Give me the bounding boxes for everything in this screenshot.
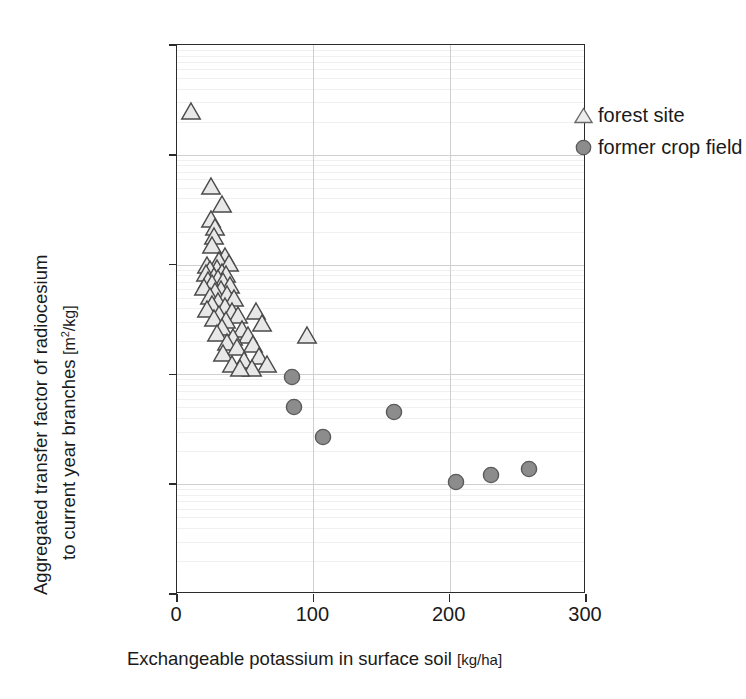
y-tick-mark	[169, 264, 177, 266]
gridline-minor-horizontal	[177, 50, 584, 51]
data-point-forest-site	[296, 325, 318, 349]
gridline-minor-horizontal	[177, 399, 584, 400]
x-tick-mark	[176, 594, 178, 602]
gridline-minor-horizontal	[177, 212, 584, 213]
data-point-former-crop-field	[519, 459, 539, 479]
legend-item-former-crop-field[interactable]: former crop field	[573, 131, 746, 163]
gridline-minor-horizontal	[177, 432, 584, 433]
gridline-minor-horizontal	[177, 102, 584, 103]
gridline-minor-horizontal	[177, 418, 584, 419]
legend: forest site former crop field	[573, 99, 746, 163]
y-axis-title-line-2-text: to current year branches	[58, 359, 79, 560]
data-point-former-crop-field	[384, 402, 404, 422]
legend-item-forest-site[interactable]: forest site	[573, 99, 746, 131]
gridline-minor-horizontal	[177, 501, 584, 502]
gridline-minor-horizontal	[177, 451, 584, 452]
gridline-minor-horizontal	[177, 62, 584, 63]
data-point-forest-site	[229, 358, 251, 382]
data-point-former-crop-field	[481, 465, 501, 485]
x-axis-title: Exchangeable potassium in surface soil […	[0, 648, 629, 670]
triangle-open-icon	[573, 105, 593, 125]
y-axis-title-line-2: to current year branches [m2/kg]	[60, 305, 79, 560]
gridline-minor-horizontal	[177, 495, 584, 496]
gridline-minor-horizontal	[177, 89, 584, 90]
y-tick-mark	[169, 154, 177, 156]
y-tick-mark	[169, 374, 177, 376]
x-axis-title-text: Exchangeable potassium in surface soil	[127, 648, 457, 669]
x-tick-mark	[313, 594, 315, 602]
gridline-minor-horizontal	[177, 509, 584, 510]
legend-label-former-crop-field: former crop field	[598, 136, 743, 159]
x-tick-label: 100	[272, 604, 352, 624]
gridline-minor-horizontal	[177, 56, 584, 57]
gridline-minor-horizontal	[177, 179, 584, 180]
y-tick-mark	[169, 44, 177, 46]
x-tick-mark	[449, 594, 451, 602]
gridline-minor-horizontal	[177, 188, 584, 189]
gridline-vertical	[313, 45, 314, 592]
gridline-minor-horizontal	[177, 385, 584, 386]
gridline-minor-horizontal	[177, 489, 584, 490]
legend-label-forest-site: forest site	[598, 104, 685, 127]
data-point-former-crop-field	[282, 367, 302, 387]
data-point-forest-site	[180, 101, 202, 125]
gridline-minor-horizontal	[177, 407, 584, 408]
data-point-former-crop-field	[284, 397, 304, 417]
gridline-minor-horizontal	[177, 122, 584, 123]
gridline-vertical	[450, 45, 451, 592]
gridline-minor-horizontal	[177, 165, 584, 166]
gridline-minor-horizontal	[177, 198, 584, 199]
y-axis-title-line-1: Aggregated transfer factor of radiocesiu…	[32, 255, 51, 595]
y-axis-unit: [m2/kg]	[61, 305, 78, 359]
x-tick-mark	[585, 594, 587, 602]
y-tick-mark	[169, 483, 177, 485]
x-tick-label: 300	[545, 604, 625, 624]
gridline-minor-horizontal	[177, 78, 584, 79]
gridline-minor-horizontal	[177, 517, 584, 518]
x-axis-unit: [kg/ha]	[457, 651, 502, 668]
data-point-former-crop-field	[446, 472, 466, 492]
x-tick-label: 200	[409, 604, 489, 624]
gridline-minor-horizontal	[177, 232, 584, 233]
gridline-minor-horizontal	[177, 528, 584, 529]
gridline-minor-horizontal	[177, 391, 584, 392]
x-tick-label: 0	[136, 604, 216, 624]
circle-filled-icon	[573, 137, 593, 157]
gridline-minor-horizontal	[177, 561, 584, 562]
gridline-horizontal	[177, 155, 584, 156]
gridline-minor-horizontal	[177, 542, 584, 543]
gridline-minor-horizontal	[177, 172, 584, 173]
gridline-minor-horizontal	[177, 160, 584, 161]
data-point-former-crop-field	[313, 427, 333, 447]
gridline-minor-horizontal	[177, 69, 584, 70]
plot-area: forest site former crop field	[176, 44, 585, 593]
gridline-horizontal	[177, 484, 584, 485]
